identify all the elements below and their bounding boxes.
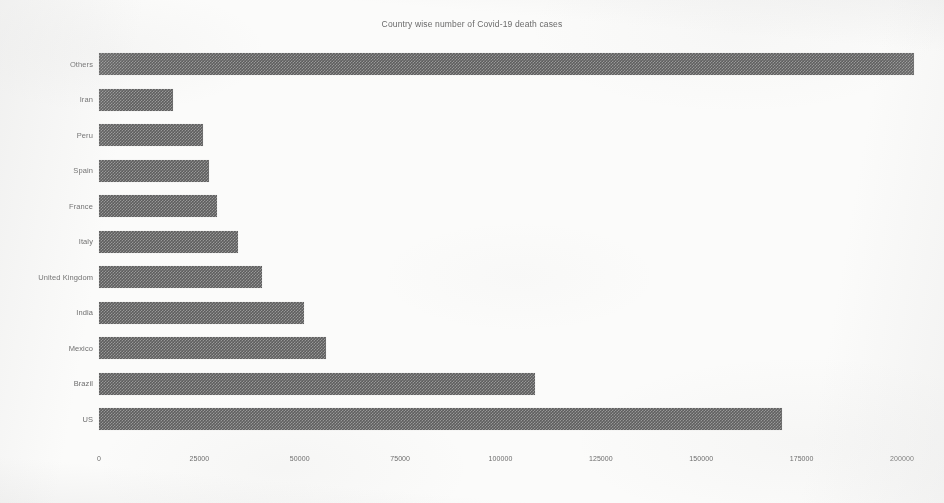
bar-row: US — [99, 408, 902, 430]
bar-row: Spain — [99, 160, 902, 182]
x-axis-tick-label: 75000 — [390, 455, 410, 462]
y-axis-tick-label: United Kingdom — [38, 273, 93, 282]
x-axis: 0250005000075000100000125000150000175000… — [99, 443, 902, 473]
x-axis-tick-label: 50000 — [290, 455, 310, 462]
bar — [99, 337, 326, 359]
bar-row: Peru — [99, 124, 902, 146]
bar — [99, 373, 535, 395]
y-axis-tick-label: Peru — [77, 131, 93, 140]
y-axis-tick-label: Others — [70, 60, 93, 69]
y-axis-tick-label: France — [69, 202, 93, 211]
x-axis-tick-label: 150000 — [689, 455, 713, 462]
y-axis-tick-label: India — [76, 308, 93, 317]
x-axis-tick-label: 25000 — [189, 455, 209, 462]
bar-row: France — [99, 195, 902, 217]
x-axis-tick-label: 100000 — [489, 455, 513, 462]
bar — [99, 231, 238, 253]
bar-row: Others — [99, 53, 902, 75]
bar — [99, 160, 209, 182]
bar-row: United Kingdom — [99, 266, 902, 288]
bar-row: Brazil — [99, 373, 902, 395]
bar-row: Iran — [99, 89, 902, 111]
y-axis-tick-label: Spain — [73, 166, 93, 175]
bar — [99, 302, 304, 324]
x-axis-tick-label: 200000 — [890, 455, 914, 462]
scanned-chart-page: Country wise number of Covid-19 death ca… — [0, 0, 944, 503]
bar — [99, 195, 217, 217]
bar — [99, 266, 262, 288]
x-axis-tick-label: 0 — [97, 455, 101, 462]
bar-row: India — [99, 302, 902, 324]
bar — [99, 124, 203, 146]
x-axis-tick-label: 125000 — [589, 455, 613, 462]
y-axis-tick-label: Mexico — [69, 344, 93, 353]
bar-row: Italy — [99, 231, 902, 253]
x-axis-tick-label: 175000 — [790, 455, 814, 462]
y-axis-tick-label: Iran — [80, 95, 93, 104]
bar — [99, 53, 914, 75]
y-axis-tick-label: Italy — [79, 237, 93, 246]
chart-title: Country wise number of Covid-19 death ca… — [0, 19, 944, 29]
bar — [99, 408, 782, 430]
y-axis-tick-label: Brazil — [74, 379, 93, 388]
bar — [99, 89, 173, 111]
y-axis-tick-label: US — [82, 415, 93, 424]
bar-chart-figure: Country wise number of Covid-19 death ca… — [0, 0, 944, 503]
bar-row: Mexico — [99, 337, 902, 359]
plot-area: OthersIranPeruSpainFranceItalyUnited Kin… — [99, 45, 902, 443]
